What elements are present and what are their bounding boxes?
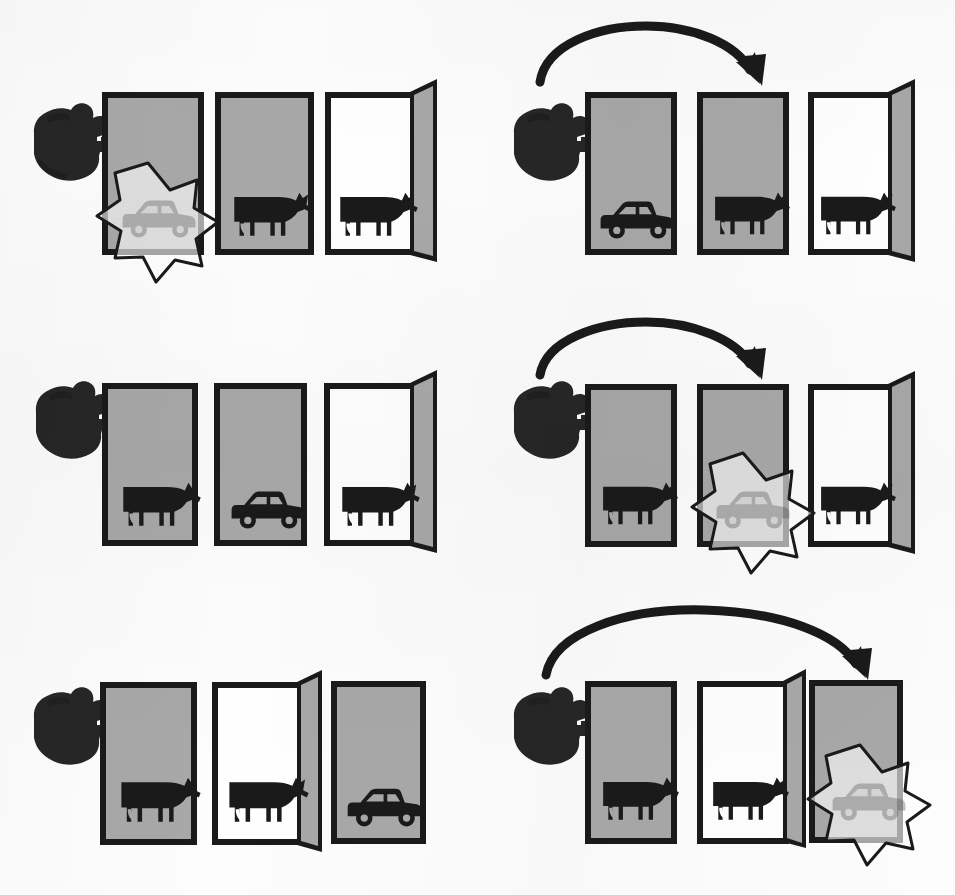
scene-stay-case-2 — [0, 320, 478, 620]
panel-stay-case-3: Case 3 — car behind door 3 — [0, 620, 478, 895]
curved-switch-arrow-icon — [546, 610, 872, 680]
door-1[interactable] — [585, 384, 678, 547]
door-2[interactable] — [215, 92, 314, 255]
panel-switch-case-1 — [478, 0, 955, 320]
door-3[interactable] — [325, 79, 437, 262]
door-2[interactable] — [697, 92, 790, 255]
curved-switch-arrow-icon — [540, 26, 766, 86]
door-2[interactable] — [214, 383, 307, 546]
door-1[interactable] — [585, 92, 677, 255]
door-2[interactable] — [697, 669, 806, 848]
door-2[interactable] — [212, 670, 322, 852]
scene-switch-case-3 — [478, 620, 955, 895]
scene-switch-case-2 — [478, 320, 955, 620]
scene-stay-case-1 — [0, 0, 478, 320]
scene-stay-case-3 — [0, 620, 478, 895]
curved-switch-arrow-icon — [540, 322, 766, 380]
door-3[interactable] — [808, 371, 915, 554]
panel-stay-case-2: Case 2 — car behind door 2 — [0, 320, 478, 620]
door-3[interactable] — [331, 681, 426, 844]
monty-hall-figure: Case 1 — car behind door 1 — [0, 0, 955, 895]
door-1[interactable] — [100, 682, 201, 845]
door-1[interactable] — [102, 383, 201, 546]
door-3[interactable] — [808, 79, 915, 262]
starburst-icon — [692, 453, 814, 573]
scene-switch-case-1 — [478, 0, 955, 320]
panel-stay-case-1: Case 1 — car behind door 1 — [0, 0, 478, 320]
door-3[interactable] — [324, 370, 437, 553]
panel-switch-case-2 — [478, 320, 955, 620]
starburst-icon — [808, 745, 930, 865]
panel-switch-case-3 — [478, 620, 955, 895]
door-1[interactable] — [585, 681, 679, 844]
